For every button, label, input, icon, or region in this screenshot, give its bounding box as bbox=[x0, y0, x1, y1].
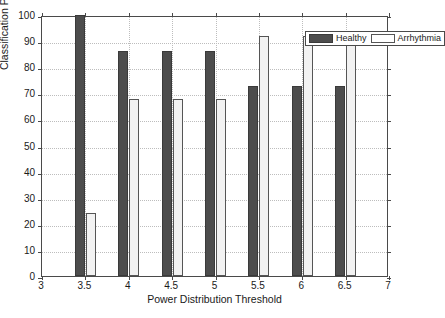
bar-arrhythmia-6 bbox=[303, 36, 313, 276]
legend-swatch-arrhythmia-icon bbox=[371, 34, 395, 43]
legend-entry-healthy: Healthy bbox=[309, 34, 367, 43]
bar-healthy-5.5 bbox=[248, 86, 258, 276]
y-tick-mark bbox=[387, 226, 391, 227]
x-axis-title: Power Distribution Threshold bbox=[41, 293, 388, 305]
bar-healthy-6 bbox=[292, 86, 302, 276]
y-tick-label: 50 bbox=[5, 142, 35, 152]
y-tick-mark bbox=[387, 174, 391, 175]
y-tick-mark bbox=[387, 17, 391, 18]
x-tick-mark bbox=[85, 13, 86, 17]
y-tick-mark bbox=[38, 95, 42, 96]
y-tick-label: 20 bbox=[5, 220, 35, 230]
x-tick-mark bbox=[129, 13, 130, 17]
x-tick-label: 3.5 bbox=[69, 281, 99, 291]
y-tick-mark bbox=[38, 69, 42, 70]
bar-arrhythmia-4.5 bbox=[173, 99, 183, 276]
x-tick-label: 5.5 bbox=[243, 281, 273, 291]
x-tick-label: 7 bbox=[373, 281, 403, 291]
y-tick-label: 90 bbox=[5, 37, 35, 47]
bar-healthy-4 bbox=[118, 51, 128, 277]
chart-legend: Healthy Arrhythmia bbox=[305, 31, 445, 46]
y-tick-mark bbox=[387, 200, 391, 201]
x-tick-mark bbox=[259, 13, 260, 17]
y-tick-label: 60 bbox=[5, 115, 35, 125]
y-tick-mark bbox=[38, 17, 42, 18]
legend-entry-arrhythmia: Arrhythmia bbox=[371, 34, 442, 43]
x-tick-mark bbox=[302, 13, 303, 17]
y-tick-label: 100 bbox=[5, 11, 35, 21]
y-tick-mark bbox=[38, 200, 42, 201]
bar-arrhythmia-4 bbox=[129, 99, 139, 276]
bar-healthy-3.5 bbox=[75, 15, 85, 276]
y-tick-mark bbox=[38, 252, 42, 253]
x-tick-mark bbox=[42, 13, 43, 17]
x-tick-mark bbox=[389, 13, 390, 17]
y-tick-mark bbox=[38, 121, 42, 122]
y-tick-mark bbox=[387, 121, 391, 122]
x-tick-mark bbox=[172, 13, 173, 17]
y-tick-mark bbox=[38, 174, 42, 175]
x-tick-label: 3 bbox=[26, 281, 56, 291]
y-tick-mark bbox=[38, 226, 42, 227]
x-tick-label: 4 bbox=[113, 281, 143, 291]
y-tick-mark bbox=[387, 95, 391, 96]
x-tick-mark bbox=[216, 13, 217, 17]
x-tick-mark bbox=[346, 13, 347, 17]
y-tick-label: 30 bbox=[5, 194, 35, 204]
y-tick-label: 40 bbox=[5, 168, 35, 178]
bar-arrhythmia-6.5 bbox=[346, 36, 356, 276]
legend-swatch-healthy-icon bbox=[309, 34, 333, 43]
plot-area: Healthy Arrhythmia bbox=[41, 16, 388, 277]
y-tick-label: 70 bbox=[5, 89, 35, 99]
legend-label-healthy: Healthy bbox=[336, 34, 367, 43]
x-tick-label: 6.5 bbox=[330, 281, 360, 291]
bar-arrhythmia-5 bbox=[216, 99, 226, 276]
bar-arrhythmia-3.5 bbox=[86, 213, 96, 276]
legend-label-arrhythmia: Arrhythmia bbox=[398, 34, 442, 43]
x-tick-label: 6 bbox=[286, 281, 316, 291]
y-tick-mark bbox=[38, 148, 42, 149]
x-tick-label: 5 bbox=[200, 281, 230, 291]
bar-healthy-4.5 bbox=[162, 51, 172, 277]
bar-arrhythmia-5.5 bbox=[259, 36, 269, 276]
bar-healthy-6.5 bbox=[335, 86, 345, 276]
y-tick-mark bbox=[387, 252, 391, 253]
y-tick-mark bbox=[387, 148, 391, 149]
y-tick-label: 80 bbox=[5, 63, 35, 73]
y-tick-label: 10 bbox=[5, 246, 35, 256]
y-tick-mark bbox=[387, 69, 391, 70]
x-tick-label: 4.5 bbox=[156, 281, 186, 291]
bar-healthy-5 bbox=[205, 51, 215, 277]
y-tick-mark bbox=[38, 43, 42, 44]
